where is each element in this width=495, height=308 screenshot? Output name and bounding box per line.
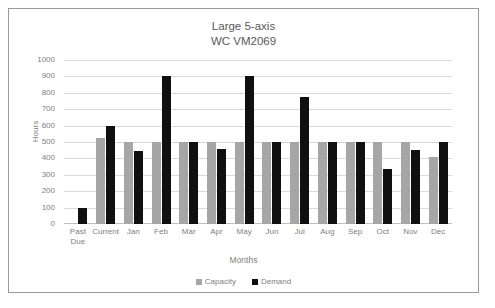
x-axis-title: Months (9, 255, 478, 265)
chart-title-line2: WC VM2069 (9, 34, 478, 49)
y-axis-tick-labels: 10009008007006005004003002001000 (9, 60, 59, 224)
x-axis-tick-label: PastDue (64, 227, 92, 253)
x-axis-tick-label: Sep (341, 227, 369, 253)
x-axis-tick-label: Nov (397, 227, 425, 253)
legend-label: Demand (261, 277, 291, 286)
y-axis-tick-label: 100 (42, 204, 55, 212)
bar-demand[interactable] (78, 208, 87, 224)
bar-capacity[interactable] (318, 142, 327, 224)
y-axis-tick-label: 900 (42, 72, 55, 80)
bar-group (64, 60, 92, 224)
bar-capacity[interactable] (207, 142, 216, 224)
bar-group (230, 60, 258, 224)
y-axis-tick-label: 0 (51, 220, 55, 228)
x-axis-tick-labels: PastDueCurrentJanFebMarAprMayJunJulAugSe… (64, 227, 452, 253)
bar-demand[interactable] (245, 76, 254, 224)
bar-demand[interactable] (411, 150, 420, 224)
bar-demand[interactable] (356, 142, 365, 224)
bar-capacity[interactable] (346, 142, 355, 224)
y-axis-tick-label: 700 (42, 105, 55, 113)
legend-swatch-icon (252, 279, 258, 285)
bar-group (341, 60, 369, 224)
bar-demand[interactable] (383, 169, 392, 224)
bar-group (147, 60, 175, 224)
bar-demand[interactable] (272, 142, 281, 224)
chart-container: Large 5-axis WC VM2069 Hours 10009008007… (8, 8, 479, 293)
y-axis-tick-label: 1000 (37, 56, 55, 64)
bar-group (175, 60, 203, 224)
legend-item[interactable]: Capacity (196, 277, 236, 286)
bar-capacity[interactable] (429, 157, 438, 224)
y-axis-tick-label: 500 (42, 138, 55, 146)
bar-group (286, 60, 314, 224)
x-axis-tick-label: May (230, 227, 258, 253)
bar-capacity[interactable] (262, 142, 271, 224)
chart-title: Large 5-axis WC VM2069 (9, 19, 478, 49)
bar-demand[interactable] (162, 76, 171, 224)
x-axis-tick-label: Jul (286, 227, 314, 253)
bar-capacity[interactable] (290, 142, 299, 224)
x-axis-tick-label: Feb (147, 227, 175, 253)
chart-legend: CapacityDemand (9, 277, 478, 286)
bar-group (369, 60, 397, 224)
chart-title-line1: Large 5-axis (212, 20, 275, 32)
legend-item[interactable]: Demand (252, 277, 291, 286)
bar-demand[interactable] (134, 151, 143, 224)
bar-capacity[interactable] (373, 142, 382, 224)
bar-group (92, 60, 120, 224)
x-axis-tick-label: Jun (258, 227, 286, 253)
bar-group (203, 60, 231, 224)
y-axis-tick-label: 400 (42, 154, 55, 162)
plot-area (64, 60, 452, 224)
bar-demand[interactable] (106, 126, 115, 224)
bar-demand[interactable] (189, 142, 198, 224)
y-axis-tick-label: 800 (42, 89, 55, 97)
x-axis-tick-label: Jan (119, 227, 147, 253)
bar-group (119, 60, 147, 224)
y-axis-tick-label: 200 (42, 187, 55, 195)
x-axis-tick-label: Current (92, 227, 120, 253)
bar-demand[interactable] (439, 142, 448, 224)
x-axis-tick-label: Aug (313, 227, 341, 253)
bar-demand[interactable] (300, 97, 309, 224)
bar-group (424, 60, 452, 224)
bar-capacity[interactable] (235, 142, 244, 224)
bar-capacity[interactable] (96, 138, 105, 224)
legend-swatch-icon (196, 279, 202, 285)
x-axis-tick-label: Oct (369, 227, 397, 253)
bar-group (258, 60, 286, 224)
bar-groups (64, 60, 452, 224)
y-axis-tick-label: 300 (42, 171, 55, 179)
bar-capacity[interactable] (124, 142, 133, 224)
bar-group (313, 60, 341, 224)
bar-demand[interactable] (328, 142, 337, 224)
x-axis-tick-label: Apr (203, 227, 231, 253)
x-axis-tick-label: Mar (175, 227, 203, 253)
legend-label: Capacity (205, 277, 236, 286)
x-axis-tick-label: Dec (424, 227, 452, 253)
bar-group (397, 60, 425, 224)
bar-capacity[interactable] (401, 142, 410, 224)
y-axis-tick-label: 600 (42, 122, 55, 130)
bar-capacity[interactable] (179, 142, 188, 224)
bar-demand[interactable] (217, 149, 226, 224)
bar-capacity[interactable] (152, 142, 161, 224)
